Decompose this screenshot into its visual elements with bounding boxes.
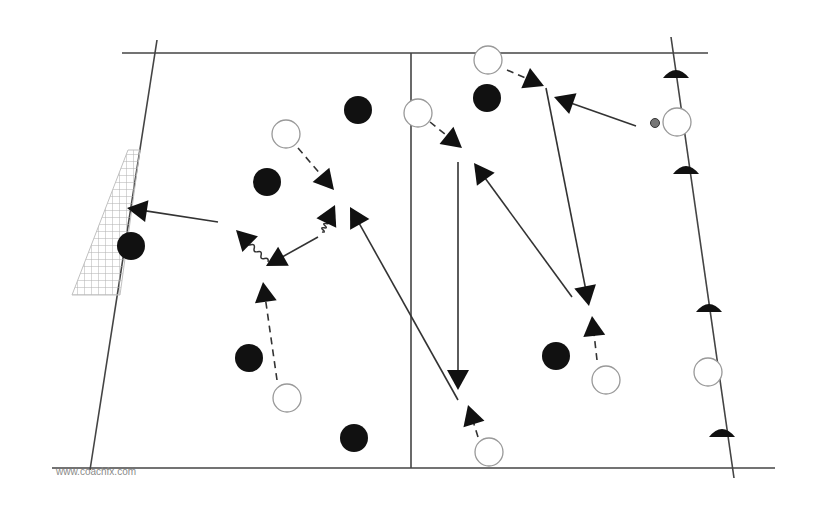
attacker-icon xyxy=(272,120,300,148)
defender-icon xyxy=(235,344,263,372)
pass-arrow xyxy=(567,102,636,126)
arrowhead-icon xyxy=(521,68,544,88)
pass-arrow xyxy=(141,210,218,222)
defender-icon xyxy=(473,84,501,112)
goal-net-icon xyxy=(72,150,140,295)
arrowhead-icon xyxy=(463,405,484,427)
attacker-icon xyxy=(273,384,301,412)
arrowhead-icon xyxy=(474,163,495,186)
pass-arrow xyxy=(357,219,458,400)
defender-icon xyxy=(117,232,145,260)
pass-arrow xyxy=(278,237,318,259)
dribble-path xyxy=(247,241,268,262)
run-arrow xyxy=(265,296,277,380)
arrowhead-icon xyxy=(440,127,462,148)
arrowhead-icon xyxy=(574,284,596,306)
attacker-icon xyxy=(404,99,432,127)
defender-icon xyxy=(542,342,570,370)
arrowhead-icon xyxy=(583,316,605,337)
ball-icon xyxy=(651,119,660,128)
arrowhead-icon xyxy=(255,282,277,303)
right-line xyxy=(671,37,734,478)
defender-icon xyxy=(344,96,372,124)
attacker-icon xyxy=(475,438,503,466)
attacker-icon xyxy=(474,46,502,74)
defender-icon xyxy=(340,424,368,452)
run-arrow xyxy=(298,148,325,179)
goal-net xyxy=(72,150,140,295)
defender-icon xyxy=(253,168,281,196)
players xyxy=(117,46,722,466)
pass-arrow xyxy=(482,174,572,297)
pass-arrow xyxy=(546,88,586,292)
attacker-icon xyxy=(694,358,722,386)
movement-arrows xyxy=(127,68,636,437)
cone-icon xyxy=(663,70,689,78)
attacker-icon xyxy=(663,108,691,136)
cone-icon xyxy=(709,429,735,437)
arrowhead-icon xyxy=(313,168,334,190)
arrowhead-icon xyxy=(266,247,289,266)
cone-icon xyxy=(673,166,699,174)
drill-diagram xyxy=(0,0,813,509)
watermark: www.coachfx.com xyxy=(56,466,136,477)
cone-icon xyxy=(696,304,722,312)
arrowhead-icon xyxy=(350,207,369,230)
attacker-icon xyxy=(592,366,620,394)
